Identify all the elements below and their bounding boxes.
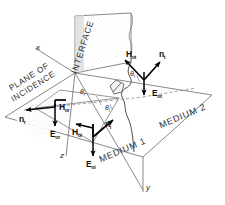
vector-label-h-ot: Hot bbox=[126, 50, 136, 59]
angle-label-incidence: θi bbox=[105, 104, 110, 112]
angle-label-transmission: θt bbox=[130, 70, 135, 78]
vector-label-n-i: ni bbox=[105, 120, 111, 129]
axis-label-y: y bbox=[146, 184, 150, 192]
vector-subscript-e-oi: oi bbox=[91, 164, 95, 170]
wave-incidence-diagram: x y z INTERFACE PLANE OF INCIDENCE MEDIU… bbox=[0, 0, 225, 205]
vector-subscript-n-i: i bbox=[110, 124, 111, 130]
vector-label-e-ot: Eot bbox=[152, 89, 162, 98]
axis-label-x: x bbox=[36, 44, 40, 52]
vector-subscript-n-r: r bbox=[24, 119, 26, 125]
vector-subscript-e-or: or bbox=[55, 134, 60, 140]
theta-subscript-i: i bbox=[109, 108, 110, 113]
vector-label-n-r: nr bbox=[19, 115, 26, 124]
vector-label-h-oi: Hoi bbox=[72, 128, 82, 137]
angle-label-reflection: θr bbox=[80, 88, 85, 96]
vector-subscript-h-oi: oi bbox=[78, 132, 82, 138]
axis-label-z: z bbox=[60, 152, 64, 160]
vector-label-e-or: Eor bbox=[50, 130, 60, 139]
vector-label-n-t: nt bbox=[159, 50, 166, 59]
vector-label-e-oi: Eoi bbox=[86, 160, 96, 169]
incidence-point-marker bbox=[110, 80, 124, 94]
vector-subscript-h-ot: ot bbox=[132, 54, 137, 60]
vector-subscript-h-or: or bbox=[65, 107, 70, 113]
vector-subscript-e-ot: ot bbox=[157, 93, 162, 99]
theta-subscript-t: t bbox=[134, 74, 135, 79]
diagram-canvas bbox=[0, 0, 225, 205]
vector-label-h-or: Hor bbox=[59, 103, 70, 112]
